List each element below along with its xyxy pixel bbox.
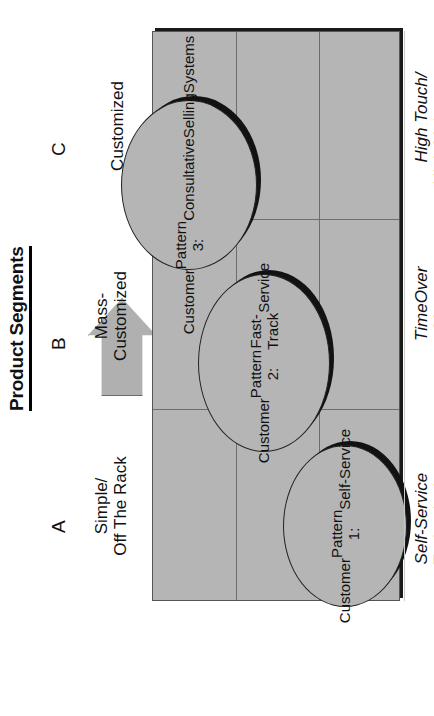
- product-marker-a: A: [48, 520, 70, 533]
- product-marker-b: B: [48, 337, 70, 350]
- segment-matrix: CustomerPattern 1:Self-Service CustomerP…: [152, 31, 400, 601]
- attitude-label-1: Self-ServiceTechnologist: [412, 471, 434, 566]
- attitude-label-2: TimeOverMoney: [412, 267, 434, 341]
- bubble-pattern-3: CustomerPattern 3:ConsultativeSellingSys…: [121, 100, 257, 270]
- product-marker-c: C: [48, 142, 70, 156]
- product-segments-title: Product Segments: [6, 246, 32, 411]
- label-divider-1: [404, 31, 405, 601]
- product-column-label-1: Simple/Off The Rack: [92, 411, 130, 601]
- product-column-label-2: Mass-Customized: [92, 221, 130, 411]
- diagram-canvas: Product Segments A B C Simple/Off The Ra…: [0, 0, 434, 716]
- bubble-pattern-2: CustomerPattern 2:Fast-TrackService: [198, 274, 330, 452]
- attitude-label-3: High Touch/High Maintenance: [412, 49, 434, 186]
- bubble-pattern-1: CustomerPattern 1:Self-Service: [283, 445, 407, 607]
